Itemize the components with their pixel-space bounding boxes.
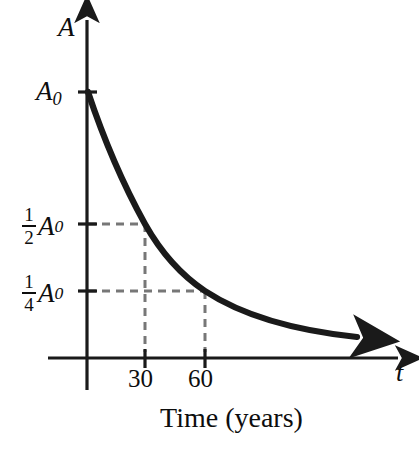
a0-symbol: A [36, 76, 53, 106]
half-numerator: 1 [22, 205, 36, 225]
half-a-symbol: A [38, 213, 55, 240]
one-half-fraction: 1 2 [22, 205, 36, 248]
quarter-numerator: 1 [22, 272, 36, 292]
quarter-denominator: 4 [22, 294, 36, 314]
quarter-a-subscript: 0 [55, 285, 64, 303]
x-axis-caption: Time (years) [0, 404, 419, 432]
x-tick-label-60: 60 [188, 366, 213, 391]
x-tick-label-30: 30 [128, 366, 153, 391]
decay-curve [88, 92, 357, 337]
y-axis-name-label: A [58, 14, 75, 41]
one-quarter-fraction: 1 4 [22, 272, 36, 315]
x-axis-name-label: t [396, 360, 403, 386]
quarter-a-symbol: A [38, 280, 55, 307]
y-tick-label-a0: A0 [36, 78, 62, 109]
y-tick-label-half-a0: 1 2 A0 [22, 205, 63, 248]
guide-lines [88, 224, 206, 352]
half-denominator: 2 [22, 227, 36, 247]
a0-subscript: 0 [53, 89, 62, 109]
exponential-decay-figure: A t A0 1 2 A0 1 4 A0 30 60 Time (years) [0, 0, 419, 453]
x-axis-caption-text: Time (years) [160, 402, 303, 433]
y-tick-label-quarter-a0: 1 4 A0 [22, 272, 63, 315]
half-a-subscript: 0 [55, 218, 64, 236]
